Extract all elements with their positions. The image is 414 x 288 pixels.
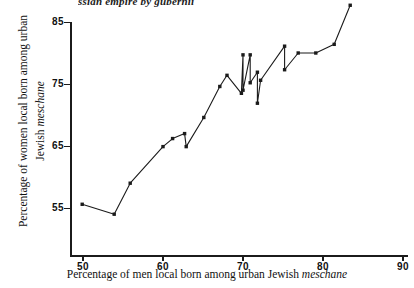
data-point bbox=[241, 89, 244, 92]
data-point bbox=[113, 213, 116, 216]
data-series-plot bbox=[0, 0, 414, 288]
data-point bbox=[202, 116, 205, 119]
data-point bbox=[81, 203, 84, 206]
data-point bbox=[249, 53, 252, 56]
data-point bbox=[314, 51, 317, 54]
data-point bbox=[297, 51, 300, 54]
data-point bbox=[256, 71, 259, 74]
data-point bbox=[283, 68, 286, 71]
data-point bbox=[171, 137, 174, 140]
data-point bbox=[259, 79, 262, 82]
data-point bbox=[333, 43, 336, 46]
data-point bbox=[241, 53, 244, 56]
data-point bbox=[349, 4, 352, 7]
data-point bbox=[249, 81, 252, 84]
data-point bbox=[256, 102, 259, 105]
data-point bbox=[240, 92, 243, 95]
data-point bbox=[218, 85, 221, 88]
data-line bbox=[82, 5, 350, 214]
data-point bbox=[129, 182, 132, 185]
data-point bbox=[185, 145, 188, 148]
data-point-markers bbox=[81, 4, 352, 216]
data-point bbox=[183, 132, 186, 135]
data-point bbox=[161, 145, 164, 148]
chart-figure: ssian empire by gubernii Percentage of w… bbox=[0, 0, 414, 288]
data-point bbox=[225, 74, 228, 77]
data-point bbox=[283, 44, 286, 47]
